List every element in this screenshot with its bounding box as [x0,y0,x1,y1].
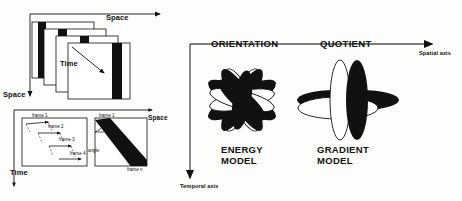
energy-model-label: ENERGYMODEL [221,144,263,166]
quotient-title: QUOTIENT [320,38,371,49]
energy-model-line1: ENERGY [221,144,263,155]
frame-label-2: frame 2 [48,124,64,129]
spacetime-time-axis-label: Time [10,168,28,177]
figure-canvas: Space Time Space Space Time frame 1 fram… [0,0,462,201]
temporal-axis-label: Temporal axis [180,183,219,189]
trace-angle-label: angle [88,148,99,153]
stack-time-label: Time [60,59,78,68]
stack-space-axis-left-label: Space [3,90,26,99]
spacetime-right-box [95,118,147,168]
gradient-model-line2: MODEL [317,155,353,166]
frame-stack-frames [32,22,130,99]
orientation-title: ORIENTATION [211,38,278,49]
gradient-model-label: GRADIENTMODEL [317,144,369,166]
quotient-rosette [297,60,399,140]
diagram-svg [0,0,462,201]
spacetime-space-axis-label: Space [148,114,168,121]
frame-label-3: frame 3 [59,137,75,142]
frame-label-1: frame 1 [32,113,48,118]
orientation-rosette [203,64,280,136]
trace-frame-last-label: frame n [127,167,143,172]
energy-model-line2: MODEL [221,155,257,166]
frame-label-4: frame 4 [70,151,86,156]
trace-frame-first-label: frame 1 [99,113,115,118]
gradient-model-line1: GRADIENT [317,144,369,155]
spatial-axis-label: Spatial axis [419,50,451,56]
stack-space-axis-top-label: Space [106,13,129,22]
